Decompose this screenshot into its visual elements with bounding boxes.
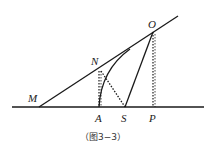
label-a: A	[94, 112, 102, 124]
line-so	[125, 32, 153, 107]
figure-caption: （图3−3）	[80, 132, 126, 142]
label-s: S	[121, 112, 127, 124]
dotted-ns	[101, 71, 125, 107]
label-p: P	[148, 112, 156, 124]
label-m: M	[27, 92, 38, 104]
line-mo	[39, 16, 178, 107]
geometry-diagram: M N O A S P （图3−3）	[0, 0, 218, 151]
label-n: N	[90, 55, 99, 67]
label-o: O	[148, 18, 156, 30]
